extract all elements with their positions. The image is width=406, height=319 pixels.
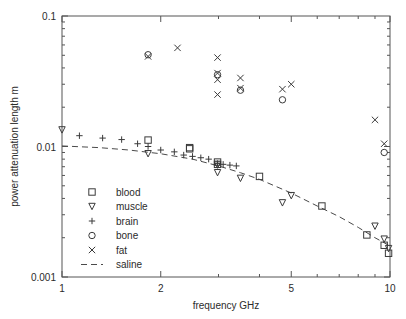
legend-marker-bone xyxy=(89,232,95,238)
legend-item-fat: fat xyxy=(89,245,128,256)
legend-label-blood: blood xyxy=(116,187,140,198)
legend: bloodmusclebrainbonefatsaline xyxy=(81,187,148,271)
point-muscle xyxy=(279,200,285,206)
saline-curve xyxy=(62,146,390,246)
point-muscle xyxy=(381,236,387,242)
series-fat xyxy=(145,45,388,147)
legend-marker-blood xyxy=(89,189,95,195)
y-tick-label: 0.1 xyxy=(42,11,56,22)
series-saline xyxy=(62,146,390,246)
point-bone xyxy=(279,97,285,103)
legend-label-fat: fat xyxy=(116,245,127,256)
legend-item-saline: saline xyxy=(81,259,143,270)
x-axis-title: frequency GHz xyxy=(193,300,260,311)
point-muscle xyxy=(145,151,151,157)
point-blood xyxy=(256,173,262,179)
legend-label-bone: bone xyxy=(116,230,139,241)
legend-marker-muscle xyxy=(89,203,95,209)
legend-label-saline: saline xyxy=(116,259,143,270)
x-tick-label: 5 xyxy=(288,283,294,294)
series-bone xyxy=(145,52,388,156)
axis-tick-labels: 125100.0010.010.1 xyxy=(31,11,396,294)
y-axis-title: power attenuation length m xyxy=(9,86,20,207)
y-tick-label: 0.01 xyxy=(37,142,57,153)
x-tick-label: 2 xyxy=(158,283,164,294)
plot-frame xyxy=(62,16,390,277)
y-tick-label: 0.001 xyxy=(31,272,56,283)
x-tick-label: 10 xyxy=(384,283,396,294)
series-muscle xyxy=(59,127,392,252)
data-points xyxy=(59,45,392,257)
point-muscle xyxy=(214,169,220,175)
point-blood xyxy=(145,137,151,143)
point-muscle xyxy=(237,175,243,181)
chart-figure: 125100.0010.010.1 bloodmusclebrainbonefa… xyxy=(0,0,406,319)
series-brain xyxy=(76,132,239,169)
x-tick-label: 1 xyxy=(59,283,65,294)
point-muscle xyxy=(372,223,378,229)
point-bone xyxy=(381,149,387,155)
legend-item-bone: bone xyxy=(89,230,139,241)
point-muscle xyxy=(288,192,294,198)
scatter-plot: 125100.0010.010.1 bloodmusclebrainbonefa… xyxy=(0,0,406,319)
legend-item-muscle: muscle xyxy=(89,201,148,212)
plot-axes xyxy=(62,16,390,277)
axis-ticks xyxy=(62,16,390,277)
legend-item-blood: blood xyxy=(89,187,141,198)
legend-label-muscle: muscle xyxy=(116,201,148,212)
legend-label-brain: brain xyxy=(116,216,138,227)
legend-item-brain: brain xyxy=(89,216,138,227)
